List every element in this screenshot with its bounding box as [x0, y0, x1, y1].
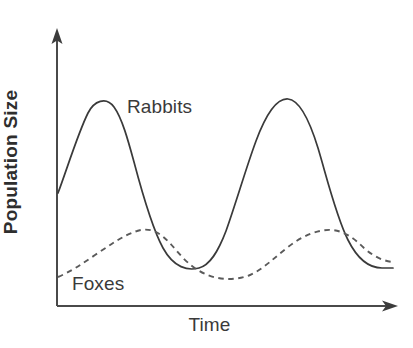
y-axis-title: Population Size: [0, 74, 24, 250]
time-axis: [57, 301, 398, 312]
series-label-foxes: Foxes: [72, 273, 124, 295]
series-line-rabbits: [58, 99, 393, 269]
x-axis-title: Time: [0, 314, 413, 336]
series-line-foxes: [58, 230, 395, 279]
series-label-rabbits: Rabbits: [127, 96, 192, 118]
population-size-axis: [52, 28, 63, 306]
chart-plot-area: [0, 0, 413, 348]
x-axis-title-text: Time: [189, 314, 231, 336]
population-cycle-figure: Rabbits Foxes Time Population Size: [0, 0, 413, 348]
